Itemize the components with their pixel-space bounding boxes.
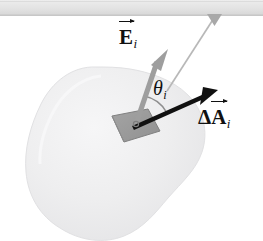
e-subscript: i — [133, 36, 137, 51]
a-subscript: i — [226, 116, 230, 131]
delta-symbol: Δ — [198, 105, 211, 129]
closed-gaussian-surface — [26, 67, 205, 240]
theta-subscript: i — [163, 88, 167, 102]
electric-field-label: E i — [119, 27, 137, 50]
a-vector-glyph: A — [211, 107, 226, 128]
overarrow-icon — [119, 21, 134, 22]
theta-symbol: θ — [153, 77, 163, 99]
area-vector-label: Δ A i — [198, 107, 230, 130]
angle-label: θi — [153, 78, 167, 101]
overarrow-icon — [211, 101, 227, 102]
a-symbol: A — [211, 105, 226, 129]
leader-line-to-surface — [167, 14, 222, 91]
e-vector-glyph: E — [119, 27, 133, 48]
top-scan-band — [0, 0, 263, 15]
flux-diagram-figure: E i θi Δ A i — [0, 0, 263, 241]
e-symbol: E — [119, 25, 133, 49]
